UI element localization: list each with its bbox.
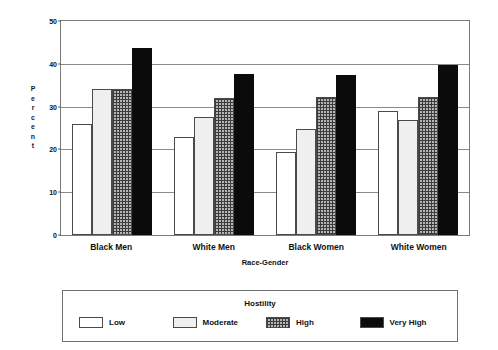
plot-area: 01020304050 [60,20,470,236]
legend-swatch [79,317,103,328]
bar [398,120,418,235]
legend-item: Low [73,317,167,328]
y-axis-title-letter: t [26,141,40,151]
x-axis-category-label: Black Men [60,242,163,252]
x-axis-title: Race-Gender [60,258,470,267]
y-tick-label: 10 [49,189,57,196]
y-axis-title-letter: e [26,122,40,132]
legend-swatch [266,317,290,328]
legend-item: High [260,317,354,328]
y-tick-label: 0 [53,232,57,239]
bar [132,48,152,235]
bar [92,89,112,235]
y-axis-title-letter: c [26,113,40,123]
y-tick-label: 20 [49,146,57,153]
legend-label: Moderate [203,318,239,327]
y-axis-title-letter: P [26,84,40,94]
y-tick-label: 50 [49,18,57,25]
bar [296,129,316,235]
bar-chart: Percent 01020304050 Black MenWhite MenBl… [0,0,498,350]
bar [234,74,254,235]
x-axis-category-label: White Women [368,242,471,252]
bar-group [61,21,163,235]
bar-groups [61,21,469,235]
legend-label: Very High [390,318,427,327]
bar-group [265,21,367,235]
y-tick-label: 30 [49,103,57,110]
y-axis-title-letter: r [26,103,40,113]
bar [418,97,438,235]
legend-swatch [173,317,197,328]
bar [112,89,132,235]
bar [194,117,214,235]
x-axis-category-label: White Men [163,242,266,252]
bar [72,124,92,235]
x-axis-category-labels: Black MenWhite MenBlack WomenWhite Women [60,242,470,252]
x-axis-category-label: Black Women [265,242,368,252]
bar-group [367,21,469,235]
bar [378,111,398,235]
bar [336,75,356,235]
y-axis-title-letter: n [26,132,40,142]
bar [438,65,458,235]
bar [174,137,194,235]
legend-item: Very High [354,317,448,328]
legend-label: High [296,318,314,327]
legend-label: Low [109,318,125,327]
legend: Hostility LowModerateHighVery High [62,290,458,342]
bar [316,97,336,235]
y-axis-title-letter: e [26,94,40,104]
y-tick-label: 40 [49,60,57,67]
legend-title: Hostility [63,299,457,308]
bar [214,98,234,235]
y-axis-title: Percent [26,84,40,151]
bar [276,152,296,235]
legend-items: LowModerateHighVery High [73,317,447,328]
legend-swatch [360,317,384,328]
bar-group [163,21,265,235]
legend-item: Moderate [167,317,261,328]
